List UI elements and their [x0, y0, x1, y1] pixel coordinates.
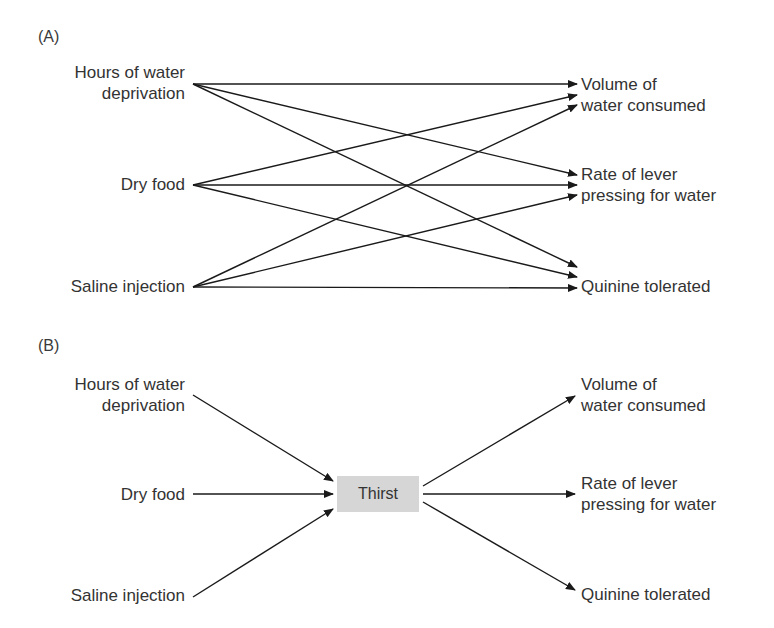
- panel-b-input-saline: Saline injection: [5, 585, 185, 606]
- panel-a-output-quinine: Quinine tolerated: [581, 276, 710, 297]
- panel-b-input-dry-food-line1: Dry food: [5, 484, 185, 505]
- thirst-label: Thirst: [358, 485, 398, 503]
- edge-a-saline-volume: [193, 105, 577, 287]
- edge-b-thirst-quinine: [423, 502, 575, 590]
- panel-a-input-saline-line1: Saline injection: [5, 276, 185, 297]
- panel-b-output-rate: Rate of lever pressing for water: [581, 473, 716, 515]
- panel-b-input-dry-food: Dry food: [5, 484, 185, 505]
- edge-b-saline-thirst: [193, 509, 333, 597]
- panel-a-output-volume-line2: water consumed: [581, 95, 706, 116]
- thirst-node: Thirst: [337, 476, 419, 512]
- panel-a-output-rate-line1: Rate of lever: [581, 164, 716, 185]
- panel-b-output-quinine: Quinine tolerated: [581, 584, 710, 605]
- panel-a-input-dry-food-line1: Dry food: [5, 174, 185, 195]
- panel-b-input-hours-line2: deprivation: [5, 395, 185, 416]
- panel-a-input-saline: Saline injection: [5, 276, 185, 297]
- edge-a-hours-quinine: [193, 84, 577, 267]
- edge-b-thirst-volume: [423, 396, 575, 486]
- panel-b-output-volume-line2: water consumed: [581, 395, 706, 416]
- panel-b-input-saline-line1: Saline injection: [5, 585, 185, 606]
- panel-a-input-hours: Hours of water deprivation: [5, 62, 185, 104]
- panel-a-input-hours-line2: deprivation: [5, 83, 185, 104]
- edge-b-hours-thirst: [193, 395, 333, 481]
- panel-b-input-hours-line1: Hours of water: [5, 374, 185, 395]
- edge-a-hours-rate: [193, 84, 577, 175]
- panel-b-output-rate-line2: pressing for water: [581, 494, 716, 515]
- panel-a-output-quinine-line1: Quinine tolerated: [581, 276, 710, 297]
- edge-a-saline-quinine: [193, 287, 577, 288]
- edge-a-dry-quinine: [193, 185, 577, 277]
- panel-a-input-dry-food: Dry food: [5, 174, 185, 195]
- panel-b-input-hours: Hours of water deprivation: [5, 374, 185, 416]
- panel-b-output-volume: Volume of water consumed: [581, 374, 706, 416]
- edge-a-dry-volume: [193, 95, 577, 185]
- panel-a-label: (A): [38, 28, 59, 46]
- panel-a-output-volume: Volume of water consumed: [581, 74, 706, 116]
- panel-a-output-rate: Rate of lever pressing for water: [581, 164, 716, 206]
- panel-a-output-volume-line1: Volume of: [581, 74, 706, 95]
- panel-b-output-rate-line1: Rate of lever: [581, 473, 716, 494]
- panel-b-output-quinine-line1: Quinine tolerated: [581, 584, 710, 605]
- panel-a-output-rate-line2: pressing for water: [581, 185, 716, 206]
- panel-b-label: (B): [38, 337, 59, 355]
- panel-b-output-volume-line1: Volume of: [581, 374, 706, 395]
- panel-a-input-hours-line1: Hours of water: [5, 62, 185, 83]
- edge-a-saline-rate: [193, 195, 577, 287]
